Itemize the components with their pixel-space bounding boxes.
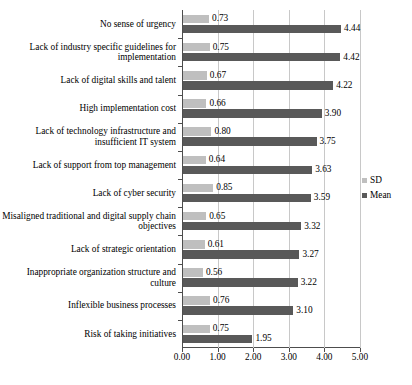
- category-tickmark: [178, 320, 182, 321]
- bar-value-label: 3.75: [320, 137, 336, 146]
- bar-sd: [183, 184, 213, 193]
- bar-mean: [183, 137, 317, 146]
- bar-mean: [183, 194, 311, 203]
- bar-value-label: 1.95: [255, 334, 271, 343]
- category-label: Lack of support from top management: [0, 151, 176, 179]
- legend-swatch-icon: [362, 178, 367, 183]
- category-label: Lack of digital skills and talent: [0, 66, 176, 94]
- category-tickmark: [178, 66, 182, 67]
- bar-group: 0.643.63: [183, 151, 361, 179]
- bar-value-label: 3.10: [296, 306, 312, 315]
- bar-value-label: 3.63: [315, 165, 331, 174]
- category-label: Lack of cyber security: [0, 179, 176, 207]
- plot-area: 0.734.440.754.420.674.220.663.900.803.75…: [182, 10, 360, 348]
- bar-sd: [183, 156, 206, 165]
- bar-group: 0.653.32: [183, 207, 361, 235]
- bar-group: 0.751.95: [183, 320, 361, 348]
- category-label-text: Lack of digital skills and talent: [0, 75, 176, 86]
- bar-value-label: 3.22: [301, 278, 317, 287]
- bar-value-label: 0.80: [214, 127, 230, 136]
- bar-value-label: 0.67: [210, 71, 226, 80]
- bar-sd: [183, 127, 211, 136]
- bar-value-label: 4.42: [343, 53, 359, 62]
- category-label: Misaligned traditional and digital suppl…: [0, 207, 176, 235]
- bar-value-label: 0.61: [208, 240, 224, 249]
- bar-sd: [183, 71, 207, 80]
- category-tickmark: [178, 151, 182, 152]
- horizontal-bar-chart: No sense of urgencyLack of industry spec…: [0, 0, 412, 385]
- category-label-text: High implementation cost: [0, 103, 176, 114]
- bar-mean: [183, 250, 299, 259]
- bar-sd: [183, 296, 210, 305]
- bar-sd: [183, 325, 210, 334]
- bar-value-label: 4.22: [336, 81, 352, 90]
- bar-mean: [183, 81, 333, 90]
- bar-value-label: 0.75: [213, 324, 229, 333]
- bar-sd: [183, 15, 209, 24]
- x-tick-label: 4.00: [316, 352, 332, 362]
- bar-mean: [183, 25, 341, 34]
- bar-value-label: 3.32: [304, 222, 320, 231]
- category-label-text: Lack of strategic orientation: [0, 244, 176, 255]
- bar-sd: [183, 240, 205, 249]
- category-label: Lack of industry specific guidelines for…: [0, 38, 176, 66]
- legend-swatch-icon: [362, 193, 367, 198]
- legend-item[interactable]: Mean: [362, 191, 410, 200]
- bar-value-label: 0.64: [209, 155, 225, 164]
- bar-value-label: 0.66: [209, 99, 225, 108]
- bar-sd: [183, 268, 203, 277]
- category-label: Inflexible business processes: [0, 292, 176, 320]
- bar-group: 0.613.27: [183, 235, 361, 263]
- bar-group: 0.803.75: [183, 123, 361, 151]
- category-axis-labels: No sense of urgencyLack of industry spec…: [0, 10, 180, 348]
- category-label-text: Inflexible business processes: [0, 300, 176, 311]
- bar-sd: [183, 99, 206, 108]
- category-label-text: Lack of industry specific guidelines for…: [0, 42, 176, 63]
- bar-value-label: 0.65: [209, 212, 225, 221]
- bar-group: 0.663.90: [183, 95, 361, 123]
- category-tickmark: [178, 179, 182, 180]
- x-tick-label: 2.00: [245, 352, 261, 362]
- bar-mean: [183, 335, 252, 344]
- bar-value-label: 3.59: [314, 193, 330, 202]
- category-label: Lack of technology infrastructure and in…: [0, 123, 176, 151]
- bar-mean: [183, 278, 298, 287]
- category-label: High implementation cost: [0, 95, 176, 123]
- x-tick-label: 3.00: [281, 352, 297, 362]
- x-tick-label: 5.00: [352, 352, 368, 362]
- bar-group: 0.763.10: [183, 292, 361, 320]
- category-label-text: Risk of taking initiatives: [0, 329, 176, 340]
- bar-value-label: 3.90: [325, 109, 341, 118]
- bar-group: 0.734.44: [183, 10, 361, 38]
- bar-value-label: 0.76: [213, 296, 229, 305]
- bar-mean: [183, 53, 340, 62]
- bar-mean: [183, 306, 293, 315]
- category-label-text: Lack of support from top management: [0, 160, 176, 171]
- category-label-text: Inappropriate organization structure and…: [0, 267, 176, 288]
- bar-value-label: 0.56: [206, 268, 222, 277]
- bar-value-label: 3.27: [302, 250, 318, 259]
- category-label-text: Lack of technology infrastructure and in…: [0, 126, 176, 147]
- category-tickmark: [178, 235, 182, 236]
- bar-value-label: 0.85: [216, 183, 232, 192]
- bar-mean: [183, 166, 312, 175]
- x-tick-label: 1.00: [209, 352, 225, 362]
- x-tick-label: 0.00: [174, 352, 190, 362]
- legend-label: Mean: [370, 191, 391, 200]
- legend-item[interactable]: SD: [362, 176, 410, 185]
- category-label: Risk of taking initiatives: [0, 320, 176, 348]
- bar-group: 0.853.59: [183, 179, 361, 207]
- category-tickmark: [178, 264, 182, 265]
- category-tickmark: [178, 292, 182, 293]
- bar-value-label: 0.75: [213, 43, 229, 52]
- category-label-text: Lack of cyber security: [0, 188, 176, 199]
- category-label-text: Misaligned traditional and digital suppl…: [0, 211, 176, 232]
- bar-sd: [183, 212, 206, 221]
- category-tickmark: [178, 38, 182, 39]
- category-label: Inappropriate organization structure and…: [0, 264, 176, 292]
- bar-sd: [183, 43, 210, 52]
- bar-mean: [183, 109, 322, 118]
- category-tickmark: [178, 123, 182, 124]
- category-label: Lack of strategic orientation: [0, 235, 176, 263]
- bar-value-label: 0.73: [212, 14, 228, 23]
